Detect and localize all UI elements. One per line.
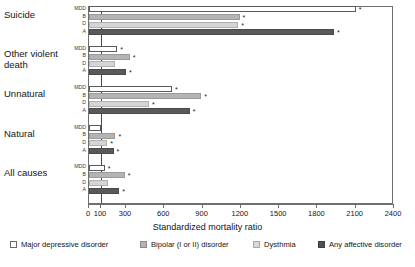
sub-label-d: D [72, 100, 86, 105]
sub-label-b: B [72, 93, 86, 98]
x-tick [100, 204, 101, 208]
category-label-other-violent-death: Other violent death [4, 48, 84, 70]
bipolar-swatch-icon [140, 241, 147, 248]
bar-mdd-natural [89, 125, 101, 131]
significance-asterisk: * [359, 7, 362, 13]
mdd-swatch-icon [10, 241, 17, 248]
x-tick-label: 600 [148, 209, 178, 218]
x-tick-label: 300 [110, 209, 140, 218]
significance-asterisk: * [337, 30, 340, 36]
x-tick [163, 204, 164, 208]
bar-a-all-causes [89, 188, 119, 194]
significance-asterisk: * [117, 149, 120, 155]
x-tick [88, 204, 89, 208]
significance-asterisk: * [120, 47, 123, 53]
legend: Major depressive disorder Bipolar (I or … [0, 240, 415, 256]
legend-item-any-affective: Any affective disorder [318, 240, 402, 249]
significance-asterisk: * [243, 15, 246, 21]
bar-mdd-other-violent-death [89, 46, 117, 52]
x-tick-label: 1200 [225, 209, 255, 218]
significance-asterisk: * [128, 173, 131, 179]
bar-d-unnatural [89, 101, 149, 107]
legend-item-bipolar: Bipolar (I or II) disorder [140, 240, 229, 249]
x-tick-label: 1500 [263, 209, 293, 218]
bar-d-suicide [89, 22, 238, 28]
bar-b-all-causes [89, 172, 125, 178]
significance-asterisk: * [108, 166, 111, 172]
chart-figure: ***************** SuicideOther violent d… [0, 0, 415, 267]
legend-label-dysthmia: Dysthmia [264, 240, 296, 249]
bar-a-other-violent-death [89, 69, 126, 75]
sub-label-b: B [72, 14, 86, 19]
x-tick [240, 204, 241, 208]
bar-d-all-causes [89, 180, 108, 186]
bar-a-suicide [89, 29, 334, 35]
x-tick [393, 204, 394, 208]
significance-asterisk: * [118, 134, 121, 140]
bar-mdd-unnatural [89, 86, 172, 92]
bar-b-natural [89, 133, 115, 139]
significance-asterisk: * [152, 102, 155, 108]
sub-label-b: B [72, 53, 86, 58]
sub-label-d: D [72, 180, 86, 185]
sub-label-a: A [72, 148, 86, 153]
x-tick [316, 204, 317, 208]
sub-label-a: A [72, 29, 86, 34]
significance-asterisk: * [241, 23, 244, 29]
sub-label-mdd: MDD [72, 46, 86, 51]
significance-asterisk: * [110, 141, 113, 147]
sub-label-mdd: MDD [72, 125, 86, 130]
sub-label-a: A [72, 68, 86, 73]
bar-a-unnatural [89, 108, 190, 114]
bar-d-natural [89, 140, 107, 146]
any-affective-swatch-icon [318, 241, 325, 248]
significance-asterisk: * [133, 55, 136, 61]
sub-label-d: D [72, 61, 86, 66]
significance-asterisk: * [193, 109, 196, 115]
legend-label-bipolar: Bipolar (I or II) disorder [151, 240, 229, 249]
bar-b-unnatural [89, 93, 201, 99]
x-tick [278, 204, 279, 208]
significance-asterisk: * [129, 70, 132, 76]
sub-label-d: D [72, 140, 86, 145]
x-tick-label: 1800 [301, 209, 331, 218]
sub-label-mdd: MDD [72, 85, 86, 90]
sub-label-a: A [72, 187, 86, 192]
sub-label-b: B [72, 132, 86, 137]
plot-area: ***************** [88, 6, 393, 204]
legend-item-dysthmia: Dysthmia [253, 240, 296, 249]
x-tick-label: 2100 [340, 209, 370, 218]
significance-asterisk: * [204, 94, 207, 100]
legend-item-mdd: Major depressive disorder [10, 240, 108, 249]
sub-label-b: B [72, 172, 86, 177]
bar-mdd-all-causes [89, 165, 105, 171]
legend-label-mdd: Major depressive disorder [21, 240, 108, 249]
bar-mdd-suicide [89, 6, 356, 12]
significance-asterisk: * [122, 189, 125, 195]
dysthmia-swatch-icon [253, 241, 260, 248]
x-axis-title: Standardized mortality ratio [0, 222, 415, 232]
significance-asterisk: * [175, 87, 178, 93]
sub-label-mdd: MDD [72, 164, 86, 169]
legend-label-any-affective: Any affective disorder [329, 240, 402, 249]
bar-a-natural [89, 148, 114, 154]
x-tick-label: 900 [187, 209, 217, 218]
x-tick [125, 204, 126, 208]
x-tick [355, 204, 356, 208]
x-tick [202, 204, 203, 208]
sub-label-mdd: MDD [72, 6, 86, 11]
sub-label-d: D [72, 21, 86, 26]
bar-b-other-violent-death [89, 54, 130, 60]
bar-d-other-violent-death [89, 61, 115, 67]
sub-label-a: A [72, 108, 86, 113]
x-tick-label: 2400 [378, 209, 408, 218]
bar-b-suicide [89, 14, 240, 20]
